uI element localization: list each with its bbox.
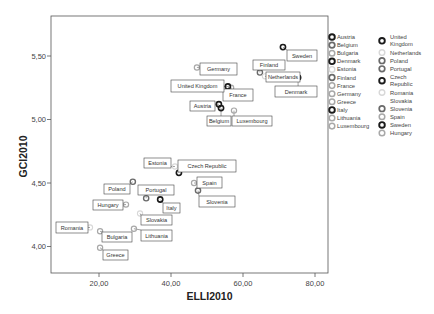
legend-item: Spain bbox=[390, 114, 405, 120]
point-label: Hungary bbox=[93, 200, 123, 210]
legend-item: Hungary bbox=[390, 130, 412, 136]
point-label-text: Netherlands bbox=[268, 74, 298, 80]
x-tick-label: 40,00 bbox=[162, 279, 181, 288]
point-label: Italy bbox=[163, 203, 180, 213]
point-label-text: Austria bbox=[194, 103, 212, 109]
legend-marker-icon bbox=[379, 58, 385, 64]
x-tick-label: 80,00 bbox=[306, 279, 325, 288]
point-label-text: Greece bbox=[106, 252, 124, 258]
legend-marker-icon bbox=[379, 122, 385, 128]
point-label-text: Luxembourg bbox=[236, 118, 267, 124]
plot-frame bbox=[51, 16, 328, 273]
legend-label: Bulgaria bbox=[337, 50, 359, 56]
legend-item: Denmark bbox=[337, 58, 361, 64]
legend-label: Luxembourg bbox=[337, 123, 369, 129]
point-label: Greece bbox=[103, 250, 128, 260]
legend-label: Estonia bbox=[337, 66, 357, 72]
legend-marker-icon bbox=[329, 34, 335, 40]
point-label: Romania bbox=[56, 222, 88, 233]
legend-marker-icon bbox=[329, 50, 335, 56]
data-point-marker bbox=[131, 226, 136, 231]
legend-marker-icon bbox=[329, 83, 335, 89]
legend-item: Germany bbox=[337, 91, 361, 97]
point-label-text: Slovakia bbox=[146, 217, 168, 223]
legend-item: Estonia bbox=[337, 66, 357, 72]
legend-label: Lithuania bbox=[337, 115, 361, 121]
point-label: Czech Republic bbox=[178, 160, 236, 172]
y-tick-label: 5,50 bbox=[31, 52, 46, 61]
legend-marker-icon bbox=[379, 90, 385, 96]
point-label: Austria bbox=[190, 101, 215, 111]
legend-item: Netherlands bbox=[390, 50, 421, 56]
point-label: Estonia bbox=[144, 158, 171, 168]
point-label: Bulgaria bbox=[102, 232, 132, 242]
legend-marker-icon bbox=[379, 130, 385, 136]
legend-label: Slovenia bbox=[390, 106, 413, 112]
legend-label: Austria bbox=[337, 34, 356, 40]
legend-label: Netherlands bbox=[390, 50, 421, 56]
data-point-marker bbox=[130, 179, 135, 184]
legend-label: Kingdom bbox=[390, 41, 413, 47]
point-label: Slovakia bbox=[141, 215, 172, 225]
y-tick-label: 4,50 bbox=[31, 179, 46, 188]
legend: AustriaBelgiumBulgariaDenmarkEstoniaFinl… bbox=[329, 34, 421, 136]
legend-item: Slovenia bbox=[390, 106, 413, 112]
legend-item: Bulgaria bbox=[337, 50, 359, 56]
legend-label: Italy bbox=[337, 107, 348, 113]
legend-marker-icon bbox=[329, 42, 335, 48]
legend-item: Sweden bbox=[390, 122, 411, 128]
legend-marker-icon bbox=[329, 67, 335, 73]
point-label: United Kingdom bbox=[171, 80, 224, 92]
legend-label: Sweden bbox=[390, 122, 411, 128]
legend-marker-icon bbox=[379, 38, 385, 44]
legend-label: Germany bbox=[337, 91, 361, 97]
data-point-marker bbox=[158, 197, 163, 202]
point-label: Spain bbox=[197, 177, 222, 188]
legend-item: Finland bbox=[337, 75, 356, 81]
legend-item: Austria bbox=[337, 34, 356, 40]
point-label-text: Slovenia bbox=[206, 199, 228, 205]
point-labels: AustriaBelgiumBulgariaDenmarkEstoniaFinl… bbox=[56, 50, 317, 260]
legend-label: United bbox=[390, 34, 407, 40]
legend-label: France bbox=[337, 83, 355, 89]
legend-label: Denmark bbox=[337, 58, 361, 64]
legend-label: Slovakia bbox=[390, 98, 413, 104]
scatter-chart: 20,0040,0060,0080,00 4,004,505,005,50 EL… bbox=[0, 0, 434, 314]
point-label-text: Czech Republic bbox=[187, 163, 226, 169]
x-axis-title: ELLI2010 bbox=[186, 290, 232, 302]
point-label-text: Belgium bbox=[209, 118, 230, 124]
point-label: Luxembourg bbox=[232, 116, 272, 126]
legend-label: Republic bbox=[390, 81, 413, 87]
point-label: Denmark bbox=[275, 86, 317, 97]
legend-label: Greece bbox=[337, 99, 356, 105]
point-label-text: Poland bbox=[108, 186, 125, 192]
x-tick-label: 60,00 bbox=[234, 279, 253, 288]
y-axis-title: GCI2010 bbox=[17, 135, 29, 177]
point-label-text: Germany bbox=[207, 66, 230, 72]
point-label-text: Romania bbox=[61, 225, 84, 231]
legend-item: Poland bbox=[390, 58, 408, 64]
legend-marker-icon bbox=[329, 107, 335, 113]
legend-label: Czech bbox=[390, 74, 406, 80]
point-label: Poland bbox=[104, 184, 130, 194]
legend-label: Belgium bbox=[337, 42, 358, 48]
point-label: Sweden bbox=[287, 50, 317, 61]
legend-item: Belgium bbox=[337, 42, 358, 48]
legend-label: Finland bbox=[337, 75, 356, 81]
point-label-text: Spain bbox=[202, 180, 216, 186]
legend-marker-icon bbox=[379, 106, 385, 112]
legend-marker-icon bbox=[329, 99, 335, 105]
legend-marker-icon bbox=[329, 123, 335, 129]
legend-label: Portugal bbox=[390, 66, 412, 72]
legend-item: France bbox=[337, 83, 355, 89]
point-label-text: France bbox=[229, 92, 246, 98]
point-label-text: Denmark bbox=[285, 89, 308, 95]
point-label: Germany bbox=[200, 63, 237, 75]
point-label-text: Finland bbox=[260, 62, 278, 68]
legend-label: Hungary bbox=[390, 130, 412, 136]
point-label: Finland bbox=[253, 60, 285, 70]
legend-label: Romania bbox=[390, 90, 414, 96]
legend-marker-icon bbox=[379, 50, 385, 56]
legend-marker-icon bbox=[329, 91, 335, 97]
point-label-text: Portugal bbox=[146, 187, 167, 193]
